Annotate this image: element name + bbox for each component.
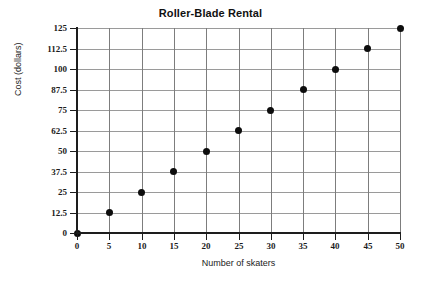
x-axis-tick (174, 234, 175, 240)
data-point (203, 148, 210, 155)
y-axis-tick-label: 12.5 (51, 208, 67, 218)
y-axis-tick (70, 69, 77, 70)
y-axis-tick-label: 37.5 (51, 167, 67, 177)
data-point (332, 66, 339, 73)
data-point (397, 25, 404, 32)
x-axis-tick (109, 234, 110, 240)
x-axis-tick (400, 234, 401, 240)
x-axis-title: Number of skaters (77, 258, 400, 268)
y-axis-tick (70, 131, 77, 132)
gridline-vertical (206, 28, 207, 233)
gridline-vertical (174, 28, 175, 233)
y-axis-tick-label: 100 (54, 64, 68, 74)
y-axis-tick-label: 125 (54, 23, 68, 33)
gridline-vertical (368, 28, 369, 233)
gridline-vertical (142, 28, 143, 233)
x-axis-tick (77, 234, 78, 240)
x-axis-tick (335, 234, 336, 240)
data-point (138, 189, 145, 196)
gridline-vertical (109, 28, 110, 233)
gridline-vertical (400, 28, 401, 233)
x-axis-tick (368, 234, 369, 240)
y-axis-tick (70, 151, 77, 152)
y-axis-tick-label: 112.5 (47, 44, 67, 54)
y-axis-tick (70, 192, 77, 193)
y-axis-tick (70, 28, 77, 29)
data-point (235, 127, 242, 134)
x-axis-tick (239, 234, 240, 240)
data-point (106, 209, 113, 216)
x-axis-tick-label: 50 (380, 241, 420, 251)
y-axis-tick-label: 75 (58, 105, 67, 115)
y-axis-tick-label: 50 (58, 146, 67, 156)
y-axis-tick (70, 49, 77, 50)
y-axis-tick (70, 213, 77, 214)
y-axis-tick-label: 87.5 (51, 85, 67, 95)
y-axis-title: Cost (dollars) (13, 16, 23, 96)
chart-container: Roller-Blade Rental 012.52537.55062.5758… (0, 0, 421, 287)
x-axis-tick (142, 234, 143, 240)
y-axis-tick (70, 90, 77, 91)
x-axis-tick (303, 234, 304, 240)
gridline-vertical (303, 28, 304, 233)
gridline-vertical (271, 28, 272, 233)
y-axis-tick (70, 233, 77, 234)
gridline-vertical (335, 28, 336, 233)
y-axis-tick-label: 62.5 (51, 126, 67, 136)
plot-area (77, 28, 400, 233)
data-point (300, 86, 307, 93)
x-axis-tick (271, 234, 272, 240)
y-axis-tick-label: 0 (63, 228, 68, 238)
data-point (364, 45, 371, 52)
x-axis-tick (206, 234, 207, 240)
chart-title: Roller-Blade Rental (0, 7, 421, 19)
y-axis-tick (70, 172, 77, 173)
y-axis-tick-label: 25 (58, 187, 67, 197)
data-point (267, 107, 274, 114)
y-axis-tick (70, 110, 77, 111)
data-point (170, 168, 177, 175)
